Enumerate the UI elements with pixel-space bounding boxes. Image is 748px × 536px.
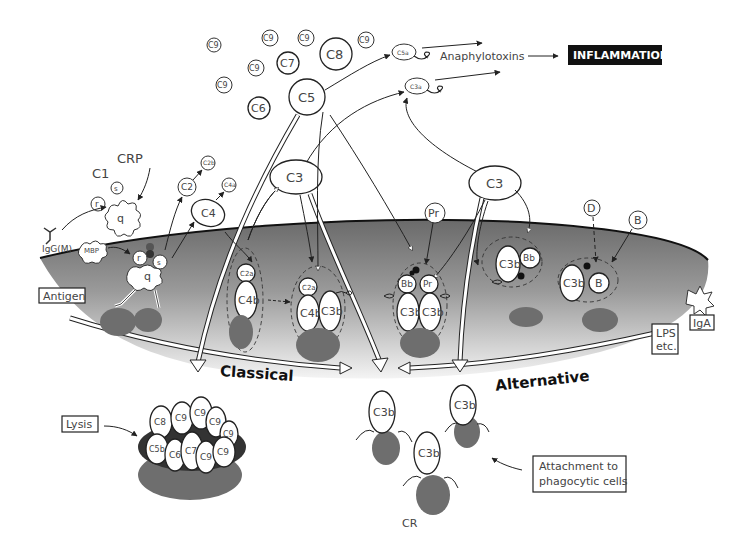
svg-text:C2a: C2a xyxy=(302,284,316,292)
svg-text:C7: C7 xyxy=(185,446,197,456)
opsonin-c3b-3: C3b CR xyxy=(402,432,458,530)
svg-text:C4b: C4b xyxy=(238,294,260,307)
svg-text:D: D xyxy=(587,202,595,215)
svg-text:C9: C9 xyxy=(208,41,219,50)
svg-text:C5: C5 xyxy=(298,90,315,105)
svg-text:C9: C9 xyxy=(359,36,370,45)
svg-text:Bb: Bb xyxy=(523,253,535,263)
svg-text:C7: C7 xyxy=(280,57,295,70)
svg-text:C8: C8 xyxy=(154,417,166,427)
svg-text:C4: C4 xyxy=(201,207,216,220)
svg-text:C2b: C2b xyxy=(203,159,215,166)
svg-text:C9: C9 xyxy=(209,417,221,427)
svg-text:C9: C9 xyxy=(194,408,206,418)
svg-text:B: B xyxy=(595,277,603,290)
opsonin-c3b-2: C3b xyxy=(445,385,489,448)
svg-text:Attachment to: Attachment to xyxy=(539,460,618,473)
svg-text:C9: C9 xyxy=(263,34,274,43)
svg-text:C3: C3 xyxy=(486,176,503,191)
svg-text:C8: C8 xyxy=(326,47,343,62)
svg-text:r: r xyxy=(137,253,141,263)
svg-text:C3b: C3b xyxy=(418,447,440,460)
svg-text:Pr: Pr xyxy=(423,279,432,289)
svg-text:etc.: etc. xyxy=(656,340,677,353)
svg-text:phagocytic cells: phagocytic cells xyxy=(539,475,628,488)
svg-text:C2a: C2a xyxy=(240,270,254,278)
svg-text:C3b: C3b xyxy=(373,406,395,419)
svg-text:C9: C9 xyxy=(217,447,229,457)
complement-diagram: Classical Alternative C9 C9 C9 C9 C9 C9 … xyxy=(0,0,748,536)
svg-text:r: r xyxy=(95,199,99,209)
anaphylotoxins: C5a C3a Anaphylotoxins xyxy=(392,43,558,94)
svg-text:C3b: C3b xyxy=(422,306,444,319)
lysis-label: Lysis xyxy=(66,418,92,431)
inflammation-label: INFLAMMATION xyxy=(573,49,669,62)
crp-label: CRP xyxy=(117,151,143,166)
svg-text:C9: C9 xyxy=(175,413,187,423)
svg-text:C3b: C3b xyxy=(321,305,343,318)
svg-text:q: q xyxy=(144,270,151,283)
c1-label: C1 xyxy=(92,166,109,181)
opsonin-c3b-1: C3b xyxy=(356,391,412,465)
svg-text:s: s xyxy=(114,185,118,193)
svg-text:s: s xyxy=(157,259,161,267)
svg-text:C9: C9 xyxy=(249,64,260,73)
svg-text:C5b: C5b xyxy=(149,445,165,454)
iga-label: IgA xyxy=(693,317,711,330)
svg-text:C3b: C3b xyxy=(499,258,521,271)
membrane-attack-complex: C8 C9 C9 C9 C9 C5b C6 C7 C9 C9 xyxy=(138,397,246,500)
igg-label: IgG(M) xyxy=(42,244,72,254)
cr-label: CR xyxy=(402,517,418,530)
svg-text:C6: C6 xyxy=(251,102,266,115)
alternative-label: Alternative xyxy=(494,367,590,395)
svg-text:C9: C9 xyxy=(200,452,212,462)
svg-text:Pr: Pr xyxy=(428,207,439,220)
svg-text:C9: C9 xyxy=(299,34,310,43)
cell-membrane xyxy=(40,220,708,379)
svg-text:LPS: LPS xyxy=(656,327,676,340)
classical-label: Classical xyxy=(220,362,295,385)
svg-text:C6: C6 xyxy=(169,450,181,460)
antigen-label: Antigen xyxy=(43,290,86,303)
terminal-components: C9 C9 C9 C9 C9 C9 C7 C8 C6 C5 xyxy=(207,30,374,119)
svg-text:C9: C9 xyxy=(217,81,228,90)
svg-text:B: B xyxy=(634,214,642,227)
svg-text:C3b: C3b xyxy=(563,277,585,290)
mbp-label: MBP xyxy=(84,247,99,255)
svg-text:C2: C2 xyxy=(181,182,193,192)
svg-text:C3b: C3b xyxy=(454,399,476,412)
svg-text:q: q xyxy=(117,212,124,225)
svg-text:C5a: C5a xyxy=(397,49,409,56)
svg-text:C3a: C3a xyxy=(410,83,422,90)
svg-text:Bb: Bb xyxy=(401,279,413,289)
svg-text:C3: C3 xyxy=(286,170,303,185)
svg-text:C4a: C4a xyxy=(224,181,236,188)
anaphylotoxins-label: Anaphylotoxins xyxy=(440,50,525,63)
